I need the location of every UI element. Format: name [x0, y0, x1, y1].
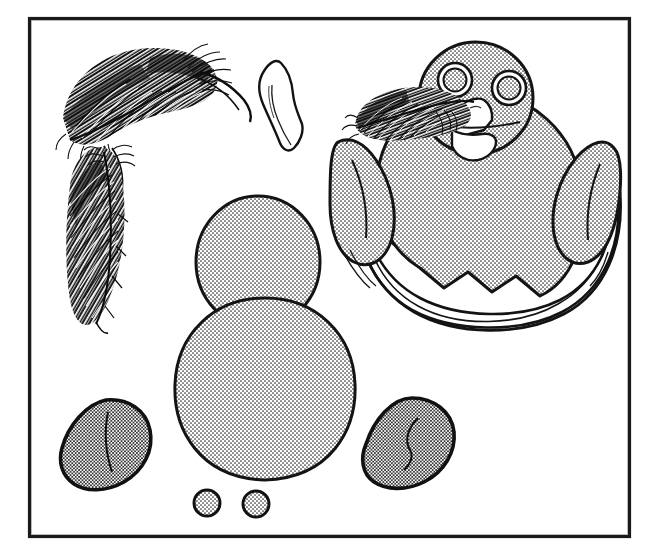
- chick-eye-right: [492, 71, 526, 105]
- body-oval-part: [175, 298, 355, 480]
- illustration-canvas: [0, 0, 654, 549]
- illustration-svg: [0, 0, 654, 549]
- eye-disc-left-part: [194, 490, 220, 516]
- eye-disc-right-part: [243, 491, 269, 517]
